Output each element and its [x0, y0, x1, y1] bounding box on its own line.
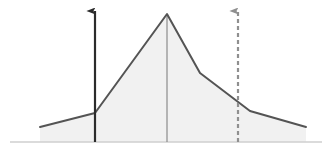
figure-canvas: [0, 0, 330, 153]
curve-fill-area: [40, 14, 306, 142]
distribution-figure: [0, 0, 330, 153]
